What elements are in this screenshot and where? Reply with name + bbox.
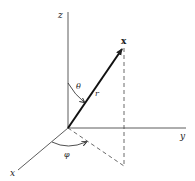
radius-label: r: [95, 89, 100, 98]
x-axis: [18, 128, 68, 170]
phi-label: φ: [64, 150, 70, 159]
y-axis-label: y: [179, 131, 186, 141]
vector-label: x: [121, 36, 127, 46]
phi-arc: [52, 142, 86, 146]
x-axis-label: x: [10, 168, 15, 178]
z-axis-label: z: [57, 10, 63, 20]
xy-plane-projection-dashed: [68, 128, 124, 166]
theta-label: θ: [76, 82, 81, 91]
spherical-coordinates-diagram: z y x x r θ φ: [0, 0, 195, 181]
